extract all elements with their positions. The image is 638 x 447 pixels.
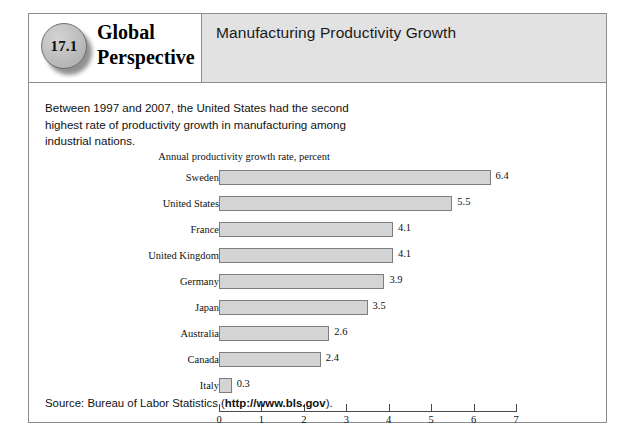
bar-track [219, 222, 393, 237]
series-title-line-2: Perspective [97, 45, 201, 70]
category-label: United Kingdom [29, 250, 219, 261]
bar-value-label: 3.5 [373, 300, 386, 311]
bar [219, 248, 393, 263]
category-label: Germany [29, 276, 219, 287]
panel-header: 17.1 Global Perspective Manufacturing Pr… [29, 14, 606, 83]
chart-rows: Sweden6.4United States5.5France4.1United… [29, 167, 606, 401]
axis-tick-label: 5 [421, 414, 441, 425]
axis-tick [474, 404, 475, 412]
bar-value-label: 4.1 [398, 248, 411, 259]
chart-row: Sweden6.4 [29, 167, 606, 193]
series-title-line-1: Global [97, 20, 201, 45]
bar [219, 222, 393, 237]
chart-row: Japan3.5 [29, 297, 606, 323]
bar-track [219, 326, 329, 341]
bar [219, 274, 384, 289]
source-suffix: ). [326, 397, 333, 409]
axis-tick-label: 4 [379, 414, 399, 425]
source-prefix: Source: Bureau of Labor Statistics ( [45, 397, 225, 409]
axis-tick-label: 3 [336, 414, 356, 425]
bar-value-label: 3.9 [389, 274, 402, 285]
category-label: United States [29, 198, 219, 209]
axis-line [219, 411, 516, 412]
bar-value-label: 0.3 [237, 378, 250, 389]
category-label: France [29, 224, 219, 235]
bar-track [219, 196, 452, 211]
category-label: Italy [29, 380, 219, 391]
bar-track [219, 248, 393, 263]
category-label: Canada [29, 354, 219, 365]
bar-track [219, 170, 491, 185]
axis-tick-label: 1 [251, 414, 271, 425]
bar [219, 196, 452, 211]
bar-chart: Annual productivity growth rate, percent… [29, 151, 606, 391]
axis-tick-label: 2 [294, 414, 314, 425]
category-label: Japan [29, 302, 219, 313]
chapter-badge: 17.1 [41, 23, 93, 75]
category-label: Australia [29, 328, 219, 339]
bar [219, 352, 321, 367]
bar-value-label: 2.4 [326, 352, 339, 363]
page-title: Manufacturing Productivity Growth [216, 24, 456, 42]
source-note: Source: Bureau of Labor Statistics (http… [45, 397, 333, 409]
bar-value-label: 4.1 [398, 222, 411, 233]
chart-row: United Kingdom4.1 [29, 245, 606, 271]
series-title: Global Perspective [97, 20, 201, 70]
chart-title: Annual productivity growth rate, percent [29, 151, 459, 162]
axis-tick-label: 0 [209, 414, 229, 425]
axis-tick-label: 7 [506, 414, 526, 425]
badge-number: 17.1 [41, 23, 87, 69]
bar-value-label: 2.6 [334, 326, 347, 337]
bar [219, 300, 368, 315]
source-url: http://www.bls.gov [225, 397, 326, 409]
bar-value-label: 5.5 [457, 196, 470, 207]
bar-track [219, 274, 384, 289]
axis-tick-label: 6 [464, 414, 484, 425]
bar-track [219, 300, 368, 315]
axis-tick [516, 404, 517, 412]
chart-row: Germany3.9 [29, 271, 606, 297]
category-label: Sweden [29, 172, 219, 183]
bar [219, 326, 329, 341]
chart-row: Canada2.4 [29, 349, 606, 375]
chart-row: France4.1 [29, 219, 606, 245]
axis-tick [389, 404, 390, 412]
panel-body: Between 1997 and 2007, the United States… [29, 83, 606, 422]
intro-paragraph: Between 1997 and 2007, the United States… [45, 100, 375, 150]
header-brand-cell: 17.1 Global Perspective [29, 14, 202, 82]
bar-value-label: 6.4 [496, 170, 509, 181]
bar [219, 170, 491, 185]
chart-row: Australia2.6 [29, 323, 606, 349]
bar-track [219, 352, 321, 367]
bar-track [219, 378, 232, 393]
header-title-cell: Manufacturing Productivity Growth [202, 14, 606, 82]
bar [219, 378, 232, 393]
chart-row: United States5.5 [29, 193, 606, 219]
axis-tick [431, 404, 432, 412]
axis-tick [346, 404, 347, 412]
global-perspective-box: 17.1 Global Perspective Manufacturing Pr… [28, 13, 607, 423]
